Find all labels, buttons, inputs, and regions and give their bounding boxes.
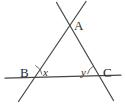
vertex-label-a: A <box>74 19 83 32</box>
angle-arc-y <box>88 66 94 74</box>
geometry-figure: A B C x y <box>0 0 125 108</box>
left-transversal-line <box>19 2 87 102</box>
angle-arc-x <box>36 66 42 75</box>
geometry-canvas <box>0 0 125 108</box>
vertex-label-b: B <box>20 66 29 79</box>
vertex-label-c: C <box>103 66 112 79</box>
right-transversal-line <box>57 3 114 101</box>
angle-label-x: x <box>43 67 48 78</box>
angle-label-y: y <box>81 67 86 78</box>
